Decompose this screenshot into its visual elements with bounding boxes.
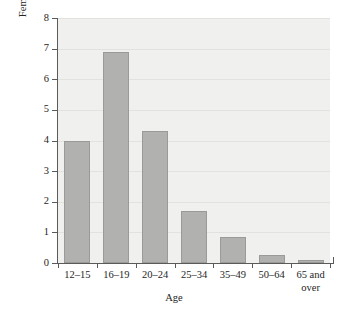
bar[interactable] xyxy=(220,237,246,263)
x-axis-tick xyxy=(330,263,331,268)
bar-series xyxy=(58,18,330,263)
bar-slot xyxy=(252,18,291,263)
x-axis-category-label-line: over xyxy=(283,282,339,295)
x-axis-tick xyxy=(58,263,59,268)
x-axis-tick xyxy=(252,263,253,268)
bar[interactable] xyxy=(298,260,324,263)
y-axis-tick-label: 1 xyxy=(34,227,49,238)
bar-slot xyxy=(136,18,175,263)
x-axis-tick xyxy=(97,263,98,268)
y-axis-tick-label: 2 xyxy=(34,196,49,207)
y-axis-tick xyxy=(52,141,58,142)
bar[interactable] xyxy=(142,131,168,263)
bar-slot xyxy=(213,18,252,263)
y-axis-tick xyxy=(52,110,58,111)
x-axis-end-tick xyxy=(333,257,334,264)
y-axis-title-line-1: Females raped or sexually assaulted xyxy=(17,0,29,17)
bar-slot xyxy=(58,18,97,263)
y-axis-tick xyxy=(52,49,58,50)
y-axis-tick xyxy=(52,18,58,19)
y-axis-tick xyxy=(52,202,58,203)
bar-chart-figure: Females raped or sexually assaulted annu… xyxy=(0,0,348,317)
bar[interactable] xyxy=(64,141,90,264)
y-axis-tick-label: 5 xyxy=(34,104,49,115)
y-axis-tick-label: 4 xyxy=(34,135,49,146)
y-axis-tick-label: 3 xyxy=(34,166,49,177)
x-axis-category-label-line: 65 and xyxy=(283,269,339,282)
x-axis-category-label: 65 andover xyxy=(283,269,339,294)
bar-slot xyxy=(97,18,136,263)
y-axis-tick xyxy=(52,171,58,172)
bar[interactable] xyxy=(181,211,207,263)
x-axis-tick xyxy=(136,263,137,268)
x-axis-line xyxy=(57,263,334,264)
y-axis-tick-label: 6 xyxy=(34,74,49,85)
y-axis-tick-label: 8 xyxy=(34,13,49,24)
bar[interactable] xyxy=(259,255,285,263)
x-axis-tick xyxy=(213,263,214,268)
x-axis-tick xyxy=(175,263,176,268)
y-axis-tick xyxy=(52,79,58,80)
bar[interactable] xyxy=(103,52,129,263)
x-axis-tick xyxy=(291,263,292,268)
y-axis-tick-label: 7 xyxy=(34,43,49,54)
bar-slot xyxy=(291,18,330,263)
y-axis-tick xyxy=(52,232,58,233)
y-axis-tick-label: 0 xyxy=(34,258,49,269)
bar-slot xyxy=(175,18,214,263)
